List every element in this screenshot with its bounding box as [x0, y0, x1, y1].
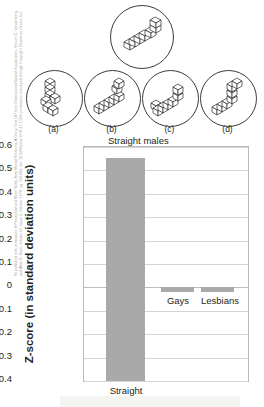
- ytick-5-text: 0.1: [0, 256, 12, 267]
- target-figure-circle: [110, 5, 174, 69]
- gridline-neg0.4: [84, 381, 248, 382]
- plot-area: Straight males Gays Lesbians Straight fe…: [83, 146, 249, 382]
- label-straight-males: Straight males: [108, 135, 228, 146]
- label-straight-females-line1: Straight: [94, 385, 158, 396]
- ytick-8-text: –0.2: [0, 326, 12, 337]
- ytick-7-text: –0.1: [0, 303, 12, 314]
- bar-straight-females: [106, 287, 145, 381]
- option-a-circle[interactable]: [26, 70, 83, 127]
- ytick-1-text: 0.5: [0, 162, 12, 173]
- ytick-9-text: –0.3: [0, 350, 12, 361]
- ytick-2-text: 0.4: [0, 186, 12, 197]
- ytick-6-text: 0: [0, 279, 12, 290]
- label-lesbians: Lesbians: [196, 295, 244, 306]
- y-axis-title: Z-score (in standard deviation units): [23, 149, 35, 379]
- option-b-shape: [85, 71, 140, 126]
- option-d-circle[interactable]: [200, 70, 257, 127]
- option-b-circle[interactable]: [84, 70, 141, 127]
- option-d-label: (d): [200, 124, 255, 134]
- bar-lesbians: [201, 287, 234, 292]
- ytick-3-text: 0.3: [0, 209, 12, 220]
- option-c-shape: [143, 71, 198, 126]
- mental-rotation-figure: (a) (b) (c) (d): [22, 2, 262, 134]
- option-c-circle[interactable]: [142, 70, 199, 127]
- ytick-4-text: 0.2: [0, 233, 12, 244]
- option-a-label: (a): [26, 124, 81, 134]
- option-a-shape: [27, 71, 82, 126]
- option-d-shape: [201, 71, 256, 126]
- option-b-label: (b): [84, 124, 139, 134]
- target-figure-shape: [111, 6, 173, 68]
- bar-gays: [161, 287, 194, 292]
- label-gays: Gays: [158, 295, 198, 306]
- footer-band: [60, 396, 240, 407]
- option-c-label: (c): [142, 124, 197, 134]
- ytick-0-text: 0.6: [0, 139, 12, 150]
- ytick-10-text: –0.4: [0, 373, 12, 384]
- zscore-bar-chart: Z-score (in standard deviation units) St…: [0, 140, 264, 392]
- gridline-0.6: [84, 147, 248, 148]
- bar-straight-males: [106, 158, 145, 287]
